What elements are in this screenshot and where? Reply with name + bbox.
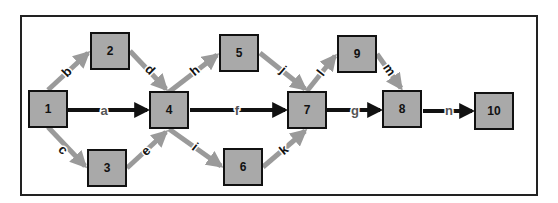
edge-label-g: g	[351, 103, 359, 118]
node-3: 3	[87, 149, 127, 187]
node-4: 4	[149, 91, 189, 129]
node-7: 7	[287, 91, 327, 129]
node-10: 10	[474, 92, 514, 130]
node-label: 1	[45, 102, 52, 116]
node-label: 3	[104, 161, 111, 175]
node-label: 8	[399, 102, 406, 116]
node-label: 4	[166, 103, 173, 117]
node-label: 10	[487, 104, 500, 118]
node-label: 9	[354, 47, 361, 61]
edge-label-f: f	[235, 103, 240, 118]
node-label: 6	[240, 160, 247, 174]
edge-label-n: n	[445, 103, 453, 118]
node-label: 5	[236, 46, 243, 60]
node-9: 9	[337, 35, 377, 73]
edge-label-a: a	[100, 103, 108, 118]
node-2: 2	[90, 32, 130, 70]
node-8: 8	[382, 90, 422, 128]
node-label: 2	[107, 44, 114, 58]
node-1: 1	[28, 90, 68, 128]
node-6: 6	[223, 148, 263, 186]
node-5: 5	[219, 34, 259, 72]
node-label: 7	[304, 103, 311, 117]
